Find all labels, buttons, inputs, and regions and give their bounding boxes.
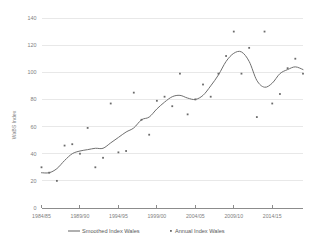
gridlines-group [42, 18, 304, 181]
data-point [225, 55, 227, 57]
data-point [256, 116, 258, 118]
x-tick-label-1984-85: 1984/85 [32, 213, 51, 219]
x-axis-line-group [42, 205, 304, 208]
data-point [202, 84, 204, 86]
data-point [79, 153, 81, 155]
data-point [187, 113, 189, 115]
y-axis-title-text: WaBS Index [11, 110, 17, 139]
data-point [41, 166, 43, 168]
data-point [118, 151, 120, 153]
x-tick-label-1999-00: 1999/00 [147, 213, 166, 219]
data-point [71, 143, 73, 145]
data-point [294, 58, 296, 60]
smoothed-index-wales-line [42, 51, 304, 173]
data-point [302, 73, 304, 75]
y-axis-title: WaBS Index [11, 110, 17, 139]
data-point [164, 96, 166, 98]
y-tick-label-20: 20 [31, 178, 37, 184]
y-tick-label-120: 120 [28, 42, 37, 48]
data-point [125, 150, 127, 152]
y-tick-label-140: 140 [28, 15, 37, 21]
x-tick-label-1994-95: 1994/95 [109, 213, 128, 219]
x-tick-label-2009-10: 2009/10 [224, 213, 243, 219]
data-point [87, 127, 89, 129]
data-point [264, 31, 266, 33]
data-point [194, 99, 196, 101]
data-point [171, 105, 173, 107]
data-point [94, 166, 96, 168]
data-point [218, 73, 220, 75]
data-point [56, 180, 58, 182]
data-point [148, 134, 150, 136]
y-tick-label-100: 100 [28, 69, 37, 75]
data-point [210, 96, 212, 98]
x-tick-label-2014-15: 2014/15 [263, 213, 282, 219]
data-point [179, 73, 181, 75]
legend-label-annual-index-wales: Annual Index Wales [175, 228, 225, 234]
x-axis-tick-labels: 1984/851989/901994/951999/002004/052009/… [32, 213, 282, 219]
data-point [48, 172, 50, 174]
data-point [102, 157, 104, 159]
y-tick-label-60: 60 [31, 124, 37, 130]
data-point [233, 31, 235, 33]
data-point [133, 92, 135, 94]
data-point [64, 145, 66, 147]
data-point [287, 67, 289, 69]
data-point [248, 47, 250, 49]
x-tick-label-1989-90: 1989/90 [71, 213, 90, 219]
data-point [279, 93, 281, 95]
chart-container: 020406080100120140 1984/851989/901994/95… [0, 0, 309, 248]
y-tick-label-80: 80 [31, 96, 37, 102]
data-point [156, 100, 158, 102]
data-point [271, 103, 273, 105]
wabs-index-scatter-chart: 020406080100120140 1984/851989/901994/95… [0, 0, 309, 248]
annual-index-point-series [41, 31, 304, 182]
y-tick-label-0: 0 [34, 205, 37, 211]
y-axis-tick-labels: 020406080100120140 [28, 15, 37, 211]
data-point [110, 103, 112, 105]
legend-label-smoothed-index-wales: Smoothed Index Wales [82, 228, 140, 234]
data-point [141, 119, 143, 121]
legend-dot-swatch [170, 230, 172, 232]
smoothed-index-line-series [42, 51, 304, 173]
y-tick-label-40: 40 [31, 151, 37, 157]
chart-legend: Smoothed Index WalesAnnual Index Wales [68, 228, 225, 234]
data-point [241, 73, 243, 75]
x-tick-label-2004-05: 2004/05 [186, 213, 205, 219]
